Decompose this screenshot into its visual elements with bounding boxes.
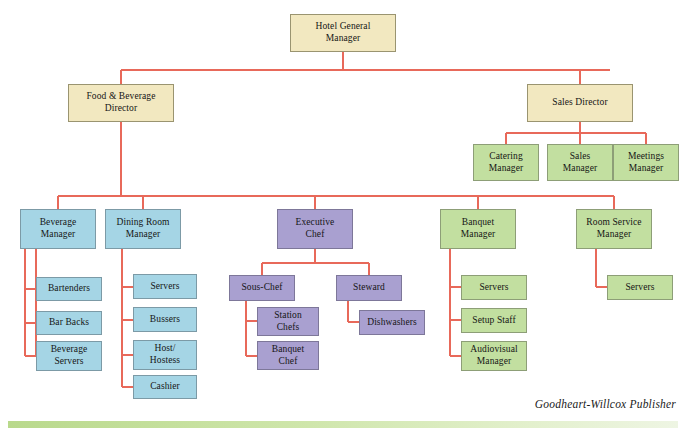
org-chart: Hotel General Manager Food & Beverage Di… xyxy=(0,0,686,436)
node-dishwashers[interactable]: Dishwashers xyxy=(359,310,425,335)
node-label: Sales Manager xyxy=(550,151,610,174)
node-bartenders[interactable]: Bartenders xyxy=(36,277,102,301)
node-room-service-manager[interactable]: Room Service Manager xyxy=(576,209,652,249)
node-label: Station Chefs xyxy=(260,310,316,333)
node-beverage-servers[interactable]: Beverage Servers xyxy=(36,341,102,371)
node-servers-room-service[interactable]: Servers xyxy=(607,275,673,300)
node-sous-chef[interactable]: Sous-Chef xyxy=(229,275,295,301)
node-cashier[interactable]: Cashier xyxy=(133,375,197,399)
node-label: Host/ Hostess xyxy=(136,343,194,366)
node-label: Room Service Manager xyxy=(579,217,649,240)
node-bussers[interactable]: Bussers xyxy=(133,307,197,332)
node-executive-chef[interactable]: Executive Chef xyxy=(277,209,353,249)
node-label: Servers xyxy=(464,282,524,294)
node-label: Bussers xyxy=(136,314,194,326)
node-label: Dishwashers xyxy=(362,317,422,329)
node-label: Executive Chef xyxy=(280,217,350,240)
node-label: Setup Staff xyxy=(464,315,524,327)
node-label: Dining Room Manager xyxy=(108,217,178,240)
node-food-beverage-director[interactable]: Food & Beverage Director xyxy=(68,84,174,122)
node-label: Banquet Manager xyxy=(443,217,513,240)
publisher-credit: Goodheart-Willcox Publisher xyxy=(535,398,676,410)
node-label: Servers xyxy=(610,282,670,294)
node-label: Servers xyxy=(136,281,194,293)
node-bar-backs[interactable]: Bar Backs xyxy=(36,311,102,335)
node-label: Bar Backs xyxy=(39,317,99,329)
node-steward[interactable]: Steward xyxy=(336,275,402,301)
node-label: Cashier xyxy=(136,381,194,393)
node-sales-manager[interactable]: Sales Manager xyxy=(547,144,613,181)
node-label: Sales Director xyxy=(530,97,630,109)
footer-accent-bar xyxy=(8,421,678,428)
node-sales-director[interactable]: Sales Director xyxy=(527,84,633,122)
node-banquet-chef[interactable]: Banquet Chef xyxy=(257,341,319,370)
node-label: Food & Beverage Director xyxy=(71,91,171,114)
node-beverage-manager[interactable]: Beverage Manager xyxy=(20,209,96,249)
node-servers-dining[interactable]: Servers xyxy=(133,274,197,299)
node-label: Audiovisual Manager xyxy=(464,344,524,367)
node-setup-staff[interactable]: Setup Staff xyxy=(461,308,527,333)
node-label: Sous-Chef xyxy=(232,282,292,294)
node-servers-banquet[interactable]: Servers xyxy=(461,275,527,300)
node-station-chefs[interactable]: Station Chefs xyxy=(257,307,319,336)
node-meetings-manager[interactable]: Meetings Manager xyxy=(613,144,679,181)
node-label: Beverage Servers xyxy=(39,344,99,367)
node-host-hostess[interactable]: Host/ Hostess xyxy=(133,340,197,370)
node-audiovisual-manager[interactable]: Audiovisual Manager xyxy=(461,341,527,371)
node-catering-manager[interactable]: Catering Manager xyxy=(473,144,539,181)
node-dining-room-manager[interactable]: Dining Room Manager xyxy=(105,209,181,249)
node-banquet-manager[interactable]: Banquet Manager xyxy=(440,209,516,249)
node-hotel-general-manager[interactable]: Hotel General Manager xyxy=(290,14,396,52)
node-label: Bartenders xyxy=(39,283,99,295)
node-label: Catering Manager xyxy=(476,151,536,174)
node-label: Banquet Chef xyxy=(260,344,316,367)
node-label: Meetings Manager xyxy=(616,151,676,174)
node-label: Steward xyxy=(339,282,399,294)
node-label: Hotel General Manager xyxy=(293,21,393,44)
node-label: Beverage Manager xyxy=(23,217,93,240)
